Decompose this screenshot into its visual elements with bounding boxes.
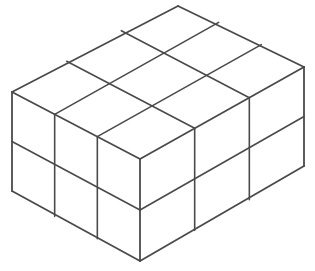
- isometric-cube-figure: Isometric drawing of a 3 by 3 by 2 recta…: [0, 0, 315, 271]
- face-fills: [12, 6, 304, 261]
- isometric-cube-drawing: [0, 0, 315, 271]
